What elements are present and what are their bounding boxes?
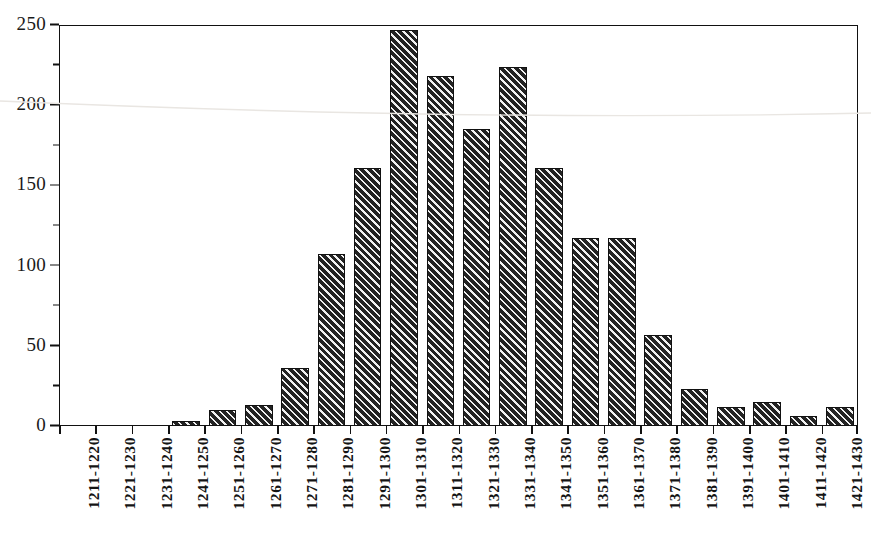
bar-slot <box>277 25 313 426</box>
x-axis-tick <box>531 426 533 434</box>
histogram-bar <box>318 254 346 426</box>
bar-slot <box>640 25 676 426</box>
x-axis-label: 1391-1400 <box>739 437 757 541</box>
y-tick-label: 100 <box>17 253 46 275</box>
bar-slot <box>785 25 821 426</box>
x-axis-tick <box>749 426 751 434</box>
x-axis-tick <box>241 426 243 434</box>
x-axis-label: 1281-1290 <box>339 437 357 541</box>
histogram-bar <box>427 76 455 426</box>
histogram-bar <box>281 368 309 426</box>
histogram-bar <box>209 410 237 426</box>
bar-slot <box>241 25 277 426</box>
y-tick-label: 200 <box>17 93 46 115</box>
bar-slot <box>676 25 712 426</box>
x-axis-label: 1421-1430 <box>848 437 866 541</box>
x-axis-label: 1411-1420 <box>812 437 830 541</box>
bar-slot <box>386 25 422 426</box>
x-axis-tick <box>604 426 606 434</box>
y-tick-mark <box>50 345 59 347</box>
bar-slot <box>822 25 858 426</box>
bars-layer <box>59 25 858 426</box>
x-axis-label: 1211-1220 <box>85 437 103 541</box>
bar-slot <box>95 25 131 426</box>
x-axis-tick <box>422 426 424 434</box>
bar-slot <box>204 25 240 426</box>
histogram-bar <box>499 67 527 426</box>
bar-slot <box>567 25 603 426</box>
x-axis-label: 1251-1260 <box>230 437 248 541</box>
x-axis-tick <box>567 426 569 434</box>
x-axis-tick <box>204 426 206 434</box>
bar-slot <box>350 25 386 426</box>
histogram-bar <box>753 402 781 426</box>
x-axis-tick <box>313 426 315 434</box>
bar-slot <box>495 25 531 426</box>
x-axis-tick <box>676 426 678 434</box>
x-axis-tick <box>132 426 134 434</box>
bar-slot <box>749 25 785 426</box>
bar-slot <box>59 25 95 426</box>
x-axis-label: 1261-1270 <box>267 437 285 541</box>
y-axis: 050100150200250 <box>0 25 59 426</box>
histogram-bar <box>681 389 709 426</box>
bar-slot <box>459 25 495 426</box>
histogram-bar <box>390 30 418 426</box>
x-axis-label: 1291-1300 <box>376 437 394 541</box>
x-axis-label: 1221-1230 <box>121 437 139 541</box>
x-axis-tick <box>459 426 461 434</box>
y-tick-label: 50 <box>26 333 46 355</box>
x-axis-labels: 1211-12201221-12301231-12401241-12501251… <box>59 437 858 541</box>
x-axis-label: 1241-1250 <box>194 437 212 541</box>
histogram-bar <box>717 407 745 426</box>
x-axis-label: 1271-1280 <box>303 437 321 541</box>
histogram-bar <box>790 416 818 426</box>
x-axis-label: 1341-1350 <box>557 437 575 541</box>
y-tick-mark <box>50 104 59 106</box>
bar-slot <box>168 25 204 426</box>
y-tick-mark <box>50 184 59 186</box>
x-axis-tick <box>785 426 787 434</box>
histogram-bar <box>463 129 491 426</box>
x-axis-label: 1321-1330 <box>485 437 503 541</box>
x-axis-label: 1381-1390 <box>703 437 721 541</box>
bar-slot <box>604 25 640 426</box>
y-tick-label: 150 <box>17 173 46 195</box>
bar-slot <box>422 25 458 426</box>
histogram-bar <box>535 168 563 426</box>
x-axis-label: 1301-1310 <box>412 437 430 541</box>
x-axis-tick <box>59 426 61 434</box>
bar-slot <box>313 25 349 426</box>
x-axis-tick <box>822 426 824 434</box>
bar-slot <box>132 25 168 426</box>
x-axis-label: 1231-1240 <box>158 437 176 541</box>
x-axis-tick <box>640 426 642 434</box>
histogram-bar <box>572 238 600 426</box>
histogram-bar <box>644 335 672 426</box>
bar-slot <box>531 25 567 426</box>
x-axis-label: 1401-1410 <box>775 437 793 541</box>
x-axis-label: 1331-1340 <box>521 437 539 541</box>
bar-slot <box>713 25 749 426</box>
y-tick-label: 250 <box>17 13 46 35</box>
histogram-bar <box>245 405 273 426</box>
y-tick-label: 0 <box>36 414 46 436</box>
histogram-bar <box>608 238 636 426</box>
x-axis-tick <box>95 426 97 434</box>
x-axis-tick <box>713 426 715 434</box>
x-axis <box>59 426 858 435</box>
histogram-bar <box>826 407 854 426</box>
x-axis-tick <box>495 426 497 434</box>
histogram-chart: 050100150200250 1211-12201221-12301231-1… <box>0 0 871 541</box>
x-axis-label: 1361-1370 <box>630 437 648 541</box>
x-axis-label: 1351-1360 <box>594 437 612 541</box>
y-tick-mark <box>50 264 59 266</box>
x-axis-tick <box>277 426 279 434</box>
x-axis-tick <box>386 426 388 434</box>
x-axis-tick <box>350 426 352 434</box>
y-tick-mark <box>50 425 59 427</box>
x-axis-label: 1311-1320 <box>448 437 466 541</box>
x-axis-label: 1371-1380 <box>666 437 684 541</box>
histogram-bar <box>354 168 382 426</box>
x-axis-tick <box>168 426 170 434</box>
